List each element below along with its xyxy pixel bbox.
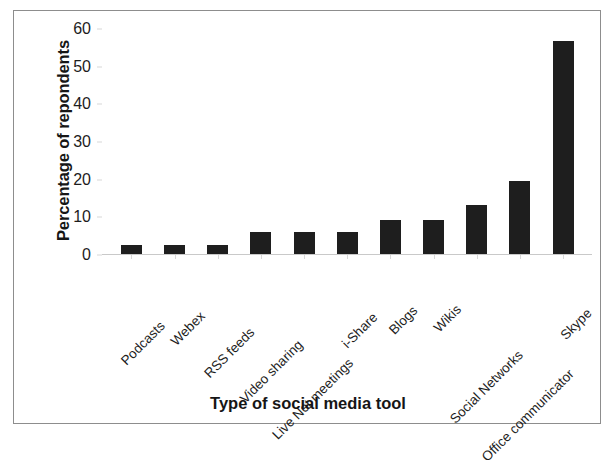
x-axis-category-label: RSS feeds — [201, 325, 257, 381]
bar[interactable] — [337, 232, 358, 255]
x-axis-tick-mark — [175, 255, 176, 259]
bar-slot — [541, 41, 584, 255]
x-axis-tick-mark — [347, 255, 348, 259]
bar[interactable] — [423, 220, 444, 255]
bar[interactable] — [294, 232, 315, 255]
bar[interactable] — [380, 220, 401, 255]
y-axis-tick-mark — [97, 142, 102, 143]
x-axis-category-label-text: Blogs — [386, 303, 420, 337]
x-axis-title: Type of social media tool — [14, 394, 602, 413]
x-axis-tick-mark — [261, 255, 262, 259]
x-axis-category-label-text: RSS feeds — [201, 325, 257, 381]
y-axis-tick-mark — [97, 29, 102, 30]
x-axis-category-label-text: Social Networks — [447, 347, 526, 426]
x-axis-category-label-text: Wikis — [430, 302, 463, 335]
x-axis-category-label: Wikis — [430, 302, 463, 335]
bar-slot — [369, 220, 412, 255]
x-axis-category-label-text: i-Share — [339, 310, 380, 351]
x-axis-tick-mark — [218, 255, 219, 259]
y-axis-tick-mark — [97, 104, 102, 105]
y-axis-title: Percentage of repondents — [54, 26, 73, 256]
x-axis-category-label-text: Webex — [167, 309, 207, 349]
y-axis-tick-mark — [97, 66, 102, 67]
bar-slot — [498, 181, 541, 255]
x-axis-category-label: Blogs — [386, 303, 420, 337]
x-axis-tick-mark — [477, 255, 478, 259]
x-axis-tick-mark — [304, 255, 305, 259]
x-axis-category-label-text: Podcasts — [118, 318, 168, 368]
bar-slot — [239, 232, 282, 255]
x-axis-category-label: i-Share — [339, 310, 380, 351]
x-axis-tick-mark — [390, 255, 391, 259]
y-axis-tick-mark — [97, 179, 102, 180]
bar[interactable] — [553, 41, 574, 255]
bar-slot — [455, 205, 498, 255]
bar[interactable] — [466, 205, 487, 255]
bar-slot — [412, 220, 455, 255]
plot-area: 0102030405060 PodcastsWebexRSS feedsVide… — [102, 29, 592, 255]
x-axis-tick-mark — [434, 255, 435, 259]
bar-slot — [326, 232, 369, 255]
bar[interactable] — [250, 232, 271, 255]
x-axis-category-label: Social Networks — [447, 347, 526, 426]
chart-figure-frame: Percentage of repondents 0102030405060 P… — [13, 10, 601, 424]
x-axis-category-label-text: Skype — [558, 306, 595, 343]
bar-slot — [282, 232, 325, 255]
x-axis-tick-mark — [563, 255, 564, 259]
plot-inner: 0102030405060 — [102, 29, 592, 255]
x-axis-category-label: Podcasts — [118, 318, 168, 368]
x-axis-category-label: Webex — [167, 309, 207, 349]
bar[interactable] — [509, 181, 530, 255]
x-axis-line — [102, 254, 592, 255]
x-axis-tick-mark — [131, 255, 132, 259]
x-axis-category-label: Skype — [558, 306, 595, 343]
x-axis-tick-mark — [520, 255, 521, 259]
y-axis-tick-mark — [97, 217, 102, 218]
